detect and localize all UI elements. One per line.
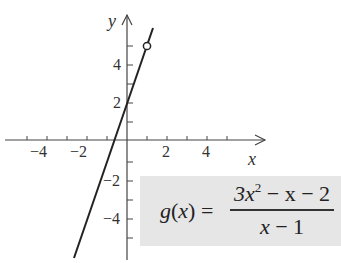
y-ticks — [127, 46, 133, 238]
y-axis-label: y — [108, 12, 116, 30]
x-axis-label: x — [248, 150, 256, 168]
formula-fraction: 3x2 − x − 2 x − 1 — [228, 181, 336, 240]
formula-lhs: g(x) = — [160, 198, 213, 224]
y-tick-label: −4 — [103, 211, 120, 227]
x-tick-label: −2 — [70, 144, 87, 160]
x-tick-label: −4 — [30, 144, 47, 160]
y-tick-label: −2 — [103, 173, 120, 189]
y-tick-label: 4 — [113, 57, 121, 73]
formula-box: g(x) = 3x2 − x − 2 x − 1 — [140, 176, 341, 246]
x-tick-label: 4 — [202, 144, 210, 160]
y-tick-label: 2 — [113, 95, 121, 111]
formula-denominator: x − 1 — [228, 211, 336, 240]
x-tick-label: 2 — [162, 144, 170, 160]
formula-numerator: 3x2 − x − 2 — [228, 181, 336, 209]
hole-open-circle-icon — [143, 42, 150, 49]
